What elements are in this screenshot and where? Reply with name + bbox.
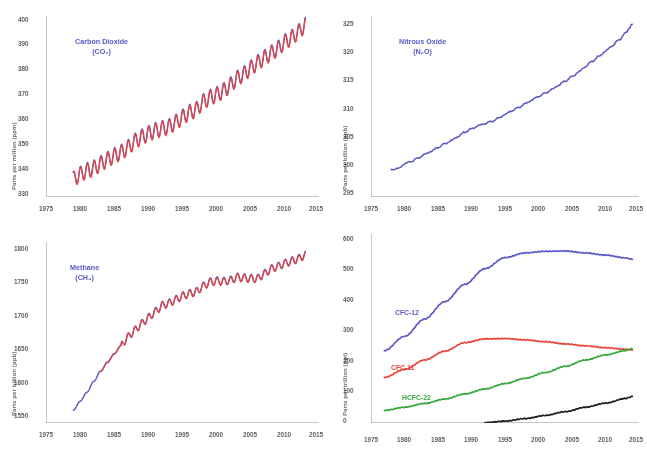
y-tick: 1750 [14, 278, 42, 285]
co2-annotation: Carbon Dioxide (CO₂) [75, 37, 128, 58]
x-tick: 2005 [243, 431, 257, 438]
series-label-cfc11: CFC-11 [391, 364, 414, 371]
y-tick: 1800 [14, 245, 42, 252]
x-tick: 2015 [629, 436, 643, 443]
x-tick: 1995 [498, 205, 512, 212]
y-tick: 340 [18, 165, 42, 172]
y-tick: 370 [18, 90, 42, 97]
co2-plot-area: Carbon Dioxide (CO₂) [46, 16, 319, 197]
x-tick: 2000 [209, 205, 223, 212]
y-tick: 100 [343, 387, 367, 394]
x-tick: 1975 [364, 205, 378, 212]
x-tick: 1980 [397, 436, 411, 443]
panel-methane: Parts per billion (ppb) 1800 1750 1700 1… [0, 226, 330, 451]
ch4-plot-area: Methane (CH₄) [46, 242, 319, 423]
y-tick: 1650 [14, 345, 42, 352]
y-tick: 500 [343, 265, 367, 272]
n2o-annotation: Nitrous Oxide (N₂O) [399, 37, 446, 58]
n2o-annotation-name: Nitrous Oxide [399, 37, 446, 46]
co2-y-axis-title: Parts per million (ppm) [11, 122, 17, 190]
y-tick: 600 [343, 235, 367, 242]
x-tick: 1980 [397, 205, 411, 212]
x-tick: 1990 [464, 205, 478, 212]
x-tick: 1985 [107, 431, 121, 438]
y-tick: 360 [18, 115, 42, 122]
x-tick: 2015 [629, 205, 643, 212]
y-tick: 1700 [14, 312, 42, 319]
x-tick: 1975 [364, 436, 378, 443]
x-tick: 1995 [175, 205, 189, 212]
x-tick: 1985 [431, 436, 445, 443]
x-tick: 1995 [498, 436, 512, 443]
x-tick: 2015 [309, 431, 323, 438]
x-tick: 2000 [209, 431, 223, 438]
x-tick: 1985 [107, 205, 121, 212]
x-tick: 1985 [431, 205, 445, 212]
y-tick: 400 [343, 296, 367, 303]
y-tick: 295 [343, 189, 367, 196]
y-tick: 200 [343, 357, 367, 364]
ch4-annotation-name: Methane [70, 263, 99, 272]
x-tick: 1975 [39, 431, 53, 438]
panel-nitrous-oxide: Parts per billion (ppb) 325 320 315 310 … [331, 0, 647, 226]
x-tick: 2000 [531, 436, 545, 443]
co2-annotation-formula: (CO₂) [75, 47, 128, 57]
y-tick: 305 [343, 133, 367, 140]
x-tick: 1990 [141, 205, 155, 212]
y-tick: 0 [343, 417, 367, 424]
x-tick: 1995 [175, 431, 189, 438]
y-tick: 310 [343, 105, 367, 112]
panel-carbon-dioxide: Parts per million (ppm) 400 390 380 370 … [0, 0, 330, 226]
y-tick: 380 [18, 65, 42, 72]
y-tick: 1550 [14, 412, 42, 419]
x-tick: 1980 [73, 431, 87, 438]
y-tick: 300 [343, 161, 367, 168]
ch4-annotation-formula: (CH₄) [70, 273, 99, 283]
x-tick: 2010 [598, 436, 612, 443]
series-label-hcfc22: HCFC-22 [402, 394, 431, 401]
y-tick: 400 [18, 16, 42, 23]
y-tick: 390 [18, 40, 42, 47]
x-tick: 2015 [309, 205, 323, 212]
x-tick: 2000 [531, 205, 545, 212]
greenhouse-gas-figure: Parts per million (ppm) 400 390 380 370 … [0, 0, 647, 451]
x-tick: 2010 [277, 431, 291, 438]
co2-annotation-name: Carbon Dioxide [75, 37, 128, 46]
x-tick: 2005 [565, 436, 579, 443]
y-tick: 330 [18, 190, 42, 197]
ch4-annotation: Methane (CH₄) [70, 263, 99, 284]
x-tick: 1990 [464, 436, 478, 443]
panel-halocarbons: Parts per trillion (ppt) 600 500 400 300… [331, 226, 647, 451]
halocarbons-plot-area: CFC-12 CFC-11 HCFC-22 HFC-134a [371, 234, 639, 423]
series-label-cfc12: CFC-12 [395, 309, 419, 316]
x-tick: 2010 [277, 205, 291, 212]
x-tick: 2005 [565, 205, 579, 212]
x-tick: 1975 [39, 205, 53, 212]
n2o-plot-area: Nitrous Oxide (N₂O) [371, 16, 639, 197]
y-tick: 1600 [14, 379, 42, 386]
y-tick: 315 [343, 76, 367, 83]
y-tick: 325 [343, 20, 367, 27]
n2o-annotation-formula: (N₂O) [399, 47, 446, 57]
x-tick: 1990 [141, 431, 155, 438]
y-tick: 350 [18, 140, 42, 147]
x-tick: 2010 [598, 205, 612, 212]
x-tick: 1980 [73, 205, 87, 212]
y-tick: 300 [343, 326, 367, 333]
y-tick: 320 [343, 48, 367, 55]
x-tick: 2005 [243, 205, 257, 212]
